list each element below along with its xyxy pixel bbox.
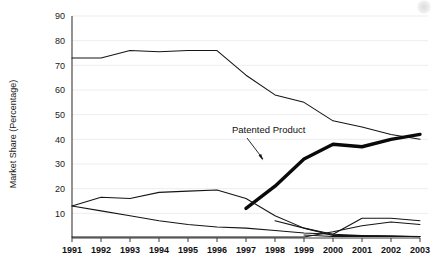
y-tick-label: 70	[55, 61, 65, 71]
x-tick-label: 2003	[410, 245, 430, 255]
x-tick-label: 2000	[323, 245, 343, 255]
y-tick-label: 10	[55, 209, 65, 219]
x-tick-label: 2001	[352, 245, 372, 255]
x-tick-label: 1993	[120, 245, 140, 255]
x-tick-label: 1996	[207, 245, 227, 255]
line-chart: 102030405060708090 199119921993199419951…	[0, 0, 437, 267]
y-axis-tick-labels: 102030405060708090	[55, 11, 65, 218]
y-axis-title: Market Share (Percentage)	[8, 80, 18, 189]
chart-container: 102030405060708090 199119921993199419951…	[0, 0, 437, 267]
x-tick-label: 1992	[91, 245, 111, 255]
x-tick-label: 1999	[294, 245, 314, 255]
y-tick-label: 90	[55, 11, 65, 21]
x-tick-label: 1991	[62, 245, 82, 255]
x-tick-label: 2002	[381, 245, 401, 255]
x-tick-label: 1994	[149, 245, 169, 255]
patented-product-annotation-label: Patented Product	[232, 124, 306, 135]
y-tick-label: 50	[55, 110, 65, 120]
x-tick-label: 1995	[178, 245, 198, 255]
x-tick-label: 1997	[236, 245, 256, 255]
y-tick-label: 80	[55, 36, 65, 46]
corner-watermark-icon	[417, 0, 431, 14]
x-tick-label: 1998	[265, 245, 285, 255]
y-tick-label: 60	[55, 85, 65, 95]
y-tick-label: 30	[55, 159, 65, 169]
y-tick-label: 40	[55, 135, 65, 145]
y-tick-label: 20	[55, 184, 65, 194]
